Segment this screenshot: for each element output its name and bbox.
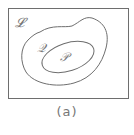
set-P-label: 𝒫 — [60, 50, 72, 64]
figure-caption: (a) — [0, 104, 134, 119]
set-L-label: 𝓛 — [15, 15, 28, 30]
venn-diagram-figure: 𝓛 𝒬 𝒫 (a) — [0, 0, 134, 135]
set-Q-label: 𝒬 — [37, 41, 48, 55]
